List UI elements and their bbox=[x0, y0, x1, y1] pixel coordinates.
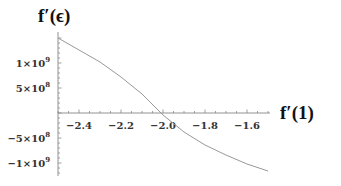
x-tick-label: −1.6 bbox=[234, 120, 260, 131]
x-tick-label: −2.0 bbox=[150, 120, 176, 131]
data-line bbox=[58, 38, 268, 171]
y-tick-label: 5×108 bbox=[16, 80, 50, 94]
y-tick-label: −1×109 bbox=[7, 155, 50, 169]
x-axis-title: f′(1) bbox=[280, 102, 314, 124]
axes bbox=[58, 32, 270, 176]
line-chart: −2.4−2.2−2.0−1.8−1.61×1095×108−5×108−1×1… bbox=[0, 0, 341, 186]
y-tick-label: −5×108 bbox=[7, 130, 50, 144]
ticks bbox=[58, 38, 268, 173]
y-axis-title: f′(ϵ) bbox=[38, 5, 70, 27]
tick-labels: −2.4−2.2−2.0−1.8−1.61×1095×108−5×108−1×1… bbox=[7, 55, 259, 169]
x-tick-label: −2.4 bbox=[66, 120, 92, 131]
y-tick-label: 1×109 bbox=[16, 55, 50, 69]
x-tick-label: −2.2 bbox=[108, 120, 134, 131]
x-tick-label: −1.8 bbox=[192, 120, 218, 131]
